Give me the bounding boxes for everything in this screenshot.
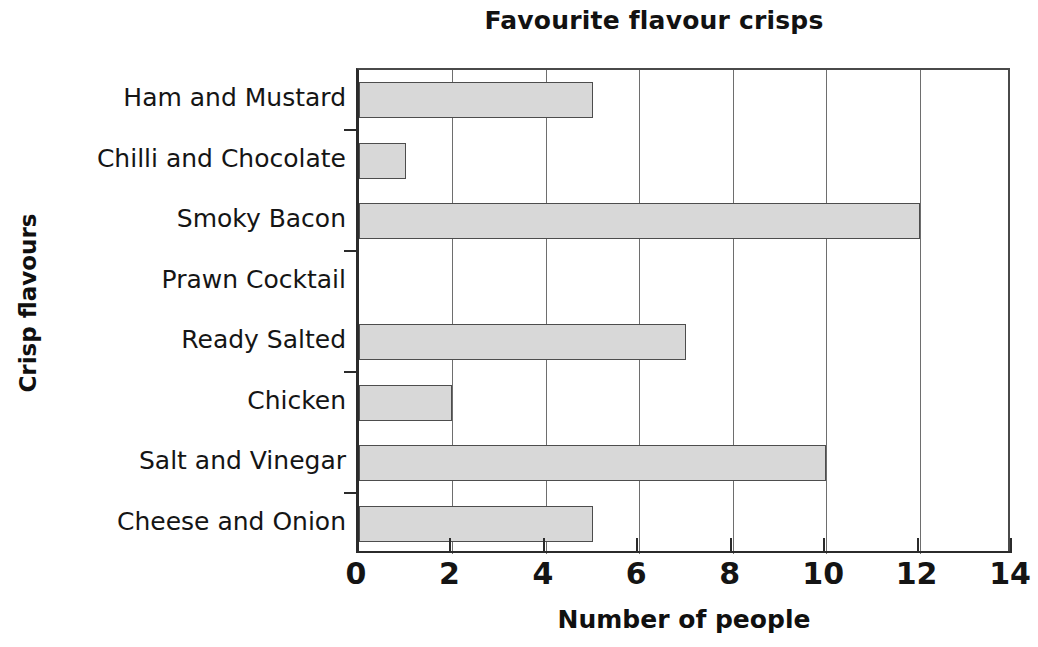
chart-title-text: Favourite flavour crisps bbox=[484, 6, 823, 35]
y-axis-label: Ham and Mustard bbox=[0, 81, 346, 115]
x-axis-tick bbox=[823, 538, 825, 552]
x-axis-tick bbox=[1010, 538, 1012, 552]
bar bbox=[359, 203, 920, 239]
x-axis-tick bbox=[356, 538, 358, 552]
y-axis-label: Ready Salted bbox=[0, 323, 346, 357]
x-axis-tick bbox=[543, 538, 545, 552]
x-axis-tick-label: 0 bbox=[321, 556, 391, 591]
bar bbox=[359, 506, 593, 542]
x-axis-tick-label: 14 bbox=[975, 556, 1038, 591]
x-axis-tick bbox=[449, 538, 451, 552]
x-axis-title: Number of people bbox=[356, 605, 1012, 634]
x-axis-tick bbox=[636, 538, 638, 552]
x-axis-tick-label: 4 bbox=[508, 556, 578, 591]
gridline bbox=[920, 70, 921, 554]
x-axis-tick-label: 12 bbox=[882, 556, 952, 591]
bar bbox=[359, 385, 452, 421]
gridline bbox=[826, 70, 827, 554]
x-axis-tick bbox=[730, 538, 732, 552]
y-axis-label: Salt and Vinegar bbox=[0, 444, 346, 478]
bar bbox=[359, 324, 686, 360]
y-axis-label: Cheese and Onion bbox=[0, 505, 346, 539]
bar-chart: Favourite flavour crisps Crisp flavours … bbox=[0, 0, 1038, 647]
chart-title: Favourite flavour crisps bbox=[0, 6, 1038, 35]
y-axis-label: Chilli and Chocolate bbox=[0, 142, 346, 176]
x-axis-tick-label: 8 bbox=[695, 556, 765, 591]
x-axis-line bbox=[356, 551, 1012, 553]
x-axis-tick bbox=[917, 538, 919, 552]
y-axis-label: Prawn Cocktail bbox=[0, 263, 346, 297]
x-axis-tick-label: 6 bbox=[601, 556, 671, 591]
x-axis-tick-label: 10 bbox=[788, 556, 858, 591]
y-axis-label: Smoky Bacon bbox=[0, 202, 346, 236]
plot-area bbox=[356, 68, 1010, 552]
gridline bbox=[452, 70, 453, 554]
x-axis-tick-label: 2 bbox=[414, 556, 484, 591]
gridline bbox=[639, 70, 640, 554]
y-axis-label: Chicken bbox=[0, 384, 346, 418]
gridline bbox=[733, 70, 734, 554]
bar bbox=[359, 82, 593, 118]
bar bbox=[359, 445, 826, 481]
gridline bbox=[546, 70, 547, 554]
bar bbox=[359, 143, 406, 179]
